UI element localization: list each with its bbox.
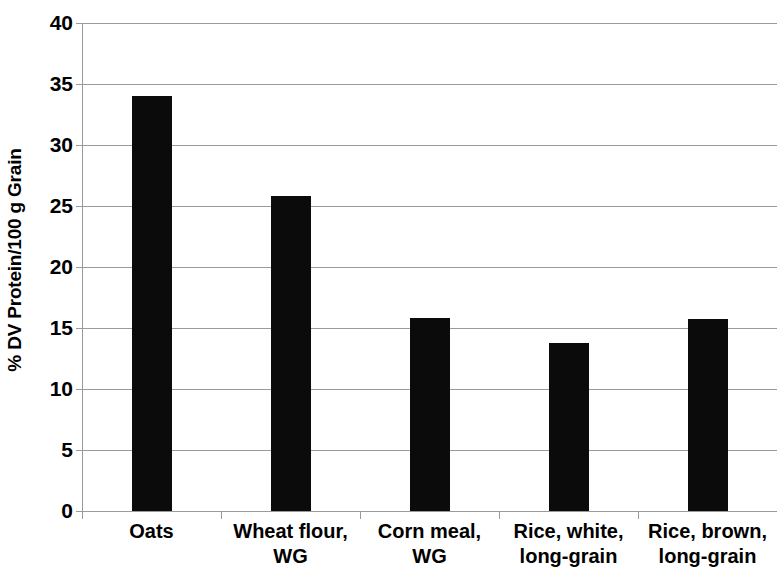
x-axis-label-line: Corn meal, [360, 519, 499, 544]
x-tick-mark [221, 511, 222, 519]
x-tick-mark [638, 511, 639, 519]
x-axis-label-line: long-grain [499, 544, 638, 569]
y-tick-mark [76, 450, 82, 451]
y-tick-label: 5 [61, 438, 73, 462]
bar-chart: % DV Protein/100 g Grain 051015202530354… [0, 0, 777, 573]
plot-area: 0510152025303540 [82, 23, 777, 511]
bar [549, 343, 589, 511]
x-axis-label-line: WG [360, 544, 499, 569]
gridline [82, 23, 777, 24]
x-axis-label-line: Rice, white, [499, 519, 638, 544]
bar [271, 196, 311, 511]
y-tick-label: 15 [50, 316, 73, 340]
y-tick-label: 20 [50, 255, 73, 279]
y-tick-mark [76, 389, 82, 390]
gridline [82, 511, 777, 512]
y-tick-mark [76, 328, 82, 329]
x-axis-label: Rice, brown,long-grain [638, 519, 777, 569]
y-tick-mark [76, 23, 82, 24]
x-axis-label: Rice, white,long-grain [499, 519, 638, 569]
x-axis-label-line: Rice, brown, [638, 519, 777, 544]
gridline [82, 267, 777, 268]
x-axis-label: Oats [82, 519, 221, 544]
x-axis-label-line: Wheat flour, [221, 519, 360, 544]
bar [688, 319, 728, 511]
x-tick-mark [499, 511, 500, 519]
x-axis-labels: OatsWheat flour,WGCorn meal,WGRice, whit… [82, 519, 777, 573]
y-tick-label: 40 [50, 11, 73, 35]
y-tick-label: 10 [50, 377, 73, 401]
x-axis-label: Wheat flour,WG [221, 519, 360, 569]
x-tick-mark [360, 511, 361, 519]
x-axis-label-line: Oats [82, 519, 221, 544]
y-tick-label: 25 [50, 194, 73, 218]
gridline [82, 145, 777, 146]
y-tick-mark [76, 84, 82, 85]
gridline [82, 206, 777, 207]
x-axis-label: Corn meal,WG [360, 519, 499, 569]
y-tick-mark [76, 267, 82, 268]
x-tick-mark [82, 511, 83, 519]
y-tick-label: 0 [61, 499, 73, 523]
x-axis-label-line: long-grain [638, 544, 777, 569]
y-axis-title-text: % DV Protein/100 g Grain [4, 148, 26, 371]
bar [132, 96, 172, 511]
gridline [82, 84, 777, 85]
bar [410, 318, 450, 511]
y-tick-label: 30 [50, 133, 73, 157]
y-tick-mark [76, 206, 82, 207]
y-tick-label: 35 [50, 72, 73, 96]
x-axis-label-line: WG [221, 544, 360, 569]
y-tick-mark [76, 145, 82, 146]
y-axis-title: % DV Protein/100 g Grain [0, 0, 30, 520]
